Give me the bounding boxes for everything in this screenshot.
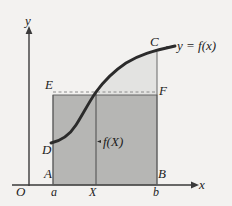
point-label-C: C — [150, 35, 159, 48]
x-axis-arrowhead — [191, 182, 199, 189]
point-label-F: F — [159, 84, 167, 97]
figure-canvas — [0, 0, 232, 206]
point-label-D: D — [42, 143, 51, 156]
point-label-E: E — [45, 78, 53, 91]
tick-label-b: b — [153, 186, 159, 198]
curve-equation-label: y = f(x) — [177, 39, 216, 52]
x-axis-label: x — [199, 178, 205, 191]
figure-container: y x O A B C D E F a X b f(X) y = f(x) — [0, 0, 232, 206]
point-label-A: A — [44, 167, 52, 180]
tick-label-X: X — [89, 186, 96, 198]
tick-label-a: a — [51, 186, 57, 198]
point-label-B: B — [158, 167, 166, 180]
y-axis-label: y — [25, 14, 31, 27]
ordinate-value-label: f(X) — [103, 135, 123, 148]
origin-label: O — [16, 185, 25, 198]
